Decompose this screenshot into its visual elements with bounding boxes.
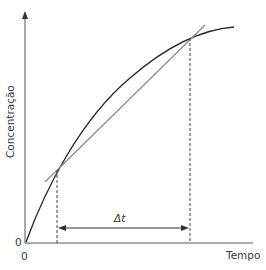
arrow-right-icon [181,225,189,231]
arrow-left-icon [58,225,66,231]
y-axis-label: Concentração [4,85,16,158]
y-origin-label: 0 [15,236,22,248]
concentration-time-diagram [0,0,266,270]
x-axis-label: Tempo [226,249,260,261]
delta-t-label: Δt [114,212,125,224]
y-axis-arrow-icon [22,11,28,19]
concentration-curve [26,27,234,242]
secant-line [45,25,205,182]
x-origin-label: 0 [21,250,28,262]
